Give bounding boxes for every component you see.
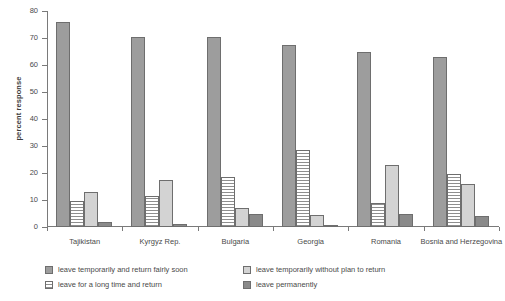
bar-set <box>433 11 489 227</box>
bar-group: Georgia <box>273 11 348 227</box>
x-tick <box>122 227 123 231</box>
bar <box>324 225 338 227</box>
bar <box>159 180 173 227</box>
legend-label: leave permanently <box>256 280 317 289</box>
bar <box>56 22 70 227</box>
bar-group: Bosnia and Herzegovina <box>424 11 499 227</box>
bar-set <box>131 11 187 227</box>
bar-set <box>282 11 338 227</box>
legend-item[interactable]: leave temporarily and return fairly soon <box>45 262 205 277</box>
bar <box>282 45 296 227</box>
bar-set <box>357 11 413 227</box>
y-tick-label: 60 <box>30 60 38 69</box>
legend-item[interactable]: leave temporarily without plan to return <box>243 262 465 277</box>
y-tick-label: 80 <box>30 6 38 15</box>
bar <box>475 216 489 227</box>
x-tick <box>499 227 500 231</box>
bar <box>221 177 235 227</box>
bar-group: Kyrgyz Rep. <box>122 11 197 227</box>
x-tick <box>348 227 349 231</box>
y-tick-label: 40 <box>30 114 38 123</box>
bar <box>310 215 324 227</box>
x-tick <box>198 227 199 231</box>
bar <box>357 52 371 228</box>
bar <box>399 214 413 228</box>
legend-item[interactable]: leave for a long time and return <box>45 277 205 292</box>
bar <box>173 224 187 228</box>
bar <box>131 37 145 227</box>
bar-group: Bulgaria <box>198 11 273 227</box>
y-tick-label: 0 <box>34 222 38 231</box>
legend-item[interactable]: leave permanently <box>243 277 465 292</box>
bar-chart: percent response 01020304050607080 Tajik… <box>0 0 505 301</box>
bar <box>145 196 159 227</box>
legend-label: leave temporarily and return fairly soon <box>58 265 188 274</box>
legend-swatch-icon <box>45 266 53 274</box>
bar-group: Romania <box>348 11 423 227</box>
y-tick-label: 10 <box>30 195 38 204</box>
y-tick-label: 70 <box>30 33 38 42</box>
y-tick-label: 50 <box>30 87 38 96</box>
x-tick <box>424 227 425 231</box>
plot-area: 01020304050607080 TajikistanKyrgyz Rep.B… <box>47 11 499 227</box>
bar <box>70 201 84 227</box>
x-axis-category-label: Bosnia and Herzegovina <box>386 237 505 246</box>
bar <box>207 37 221 227</box>
bar <box>249 214 263 228</box>
bar <box>447 174 461 227</box>
legend-label: leave for a long time and return <box>58 280 162 289</box>
legend-swatch-icon <box>243 281 251 289</box>
bar <box>461 184 475 227</box>
y-tick-label: 20 <box>30 168 38 177</box>
bar <box>98 222 112 227</box>
bar <box>385 165 399 227</box>
bar <box>296 150 310 227</box>
legend-swatch-icon <box>45 281 53 289</box>
bar-set <box>207 11 263 227</box>
bar <box>433 57 447 227</box>
bar-group: Tajikistan <box>47 11 122 227</box>
x-tick <box>273 227 274 231</box>
bar <box>371 203 385 227</box>
bar-set <box>56 11 112 227</box>
bar <box>84 192 98 227</box>
x-tick <box>47 227 48 231</box>
bar <box>235 208 249 227</box>
y-tick-label: 30 <box>30 141 38 150</box>
chart-legend: leave temporarily and return fairly soon… <box>45 262 465 292</box>
y-axis-title: percent response <box>14 49 23 169</box>
legend-label: leave temporarily without plan to return <box>256 265 385 274</box>
legend-swatch-icon <box>243 266 251 274</box>
